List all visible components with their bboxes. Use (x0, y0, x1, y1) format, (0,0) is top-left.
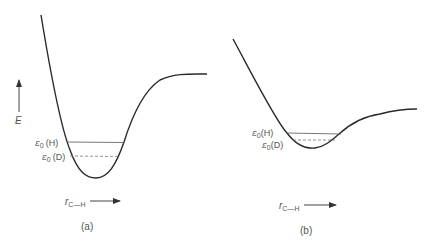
zero-point-level-d-a (70, 156, 120, 157)
zero-point-level-h-a (67, 142, 124, 143)
level-label-d-b: ε0(D) (262, 140, 283, 151)
x-axis-label-a: rC—H (65, 196, 85, 208)
zero-point-level-h-b (287, 133, 341, 134)
caption-b: (b) (300, 225, 312, 236)
level-label-h-b: ε0(H) (252, 128, 273, 139)
caption-a: (a) (81, 221, 93, 232)
level-label-d-a: ε0(D) (42, 152, 65, 163)
potential-curve-a (41, 15, 207, 178)
energy-label: E (15, 115, 22, 126)
level-label-h-a: ε0(H) (35, 138, 58, 149)
panel-a: E ε0(H) ε0(D) rC—H (a) (15, 15, 207, 232)
panel-b: ε0(H) ε0(D) rC—H (b) (233, 39, 417, 236)
figure: E ε0(H) ε0(D) rC—H (a) ε0(H) ε0(D) rC—H … (0, 0, 429, 244)
x-axis-label-b: rC—H (279, 200, 299, 212)
